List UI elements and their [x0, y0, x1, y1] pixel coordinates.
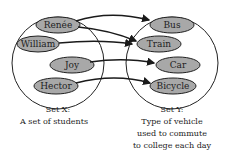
set-x-title: Set X:	[46, 105, 70, 114]
set-x-subtitle: A set of students	[19, 117, 88, 126]
svg-text:Renée: Renée	[44, 20, 73, 30]
node-car: Car	[156, 57, 200, 73]
node-william: William	[17, 36, 59, 52]
arrow-william-train	[59, 41, 132, 44]
node-renee: Renée	[36, 17, 80, 33]
svg-text:Bus: Bus	[163, 20, 180, 30]
svg-text:Joy: Joy	[64, 60, 80, 70]
arrow-renee-train	[78, 27, 136, 41]
set-y-subtitle-line-1: Type of vehicle	[141, 117, 203, 126]
svg-text:Train: Train	[147, 39, 172, 49]
node-bicycle: Bicycle	[150, 78, 196, 94]
set-y-subtitle-line-2: used to commute	[137, 129, 207, 138]
node-hector: Hector	[34, 78, 78, 94]
node-bus: Bus	[150, 17, 194, 33]
svg-text:William: William	[21, 39, 56, 49]
arrow-renee-bus	[76, 15, 149, 21]
svg-text:Bicycle: Bicycle	[157, 81, 190, 91]
node-train: Train	[137, 36, 181, 52]
node-joy: Joy	[50, 57, 94, 73]
arrow-hector-bicycle	[76, 78, 150, 83]
set-y-title: Set Y:	[161, 105, 184, 114]
svg-text:Car: Car	[170, 60, 187, 70]
relation-diagram: Renée William Joy Hector Bus Train Car B…	[0, 0, 231, 162]
arrow-joy-car	[90, 60, 154, 63]
svg-text:Hector: Hector	[40, 81, 72, 91]
set-y-subtitle-line-3: to college each day	[133, 141, 212, 150]
